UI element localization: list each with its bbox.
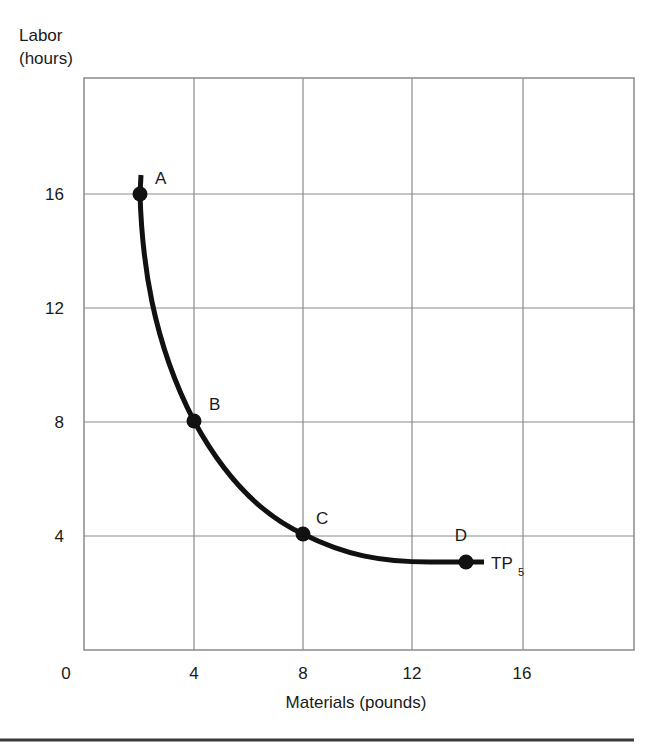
point-c-label: C <box>316 509 328 528</box>
horizontal-gridlines <box>84 194 634 536</box>
point-a-marker <box>133 187 148 202</box>
x-axis-label: Materials (pounds) <box>286 693 427 712</box>
plot-frame <box>84 78 634 650</box>
point-b-marker <box>187 414 202 429</box>
isoquant-curve-tp5 <box>140 175 484 562</box>
x-tick-8: 8 <box>298 664 307 683</box>
isoquant-chart: Labor (hours) 16 12 8 4 0 4 8 12 16 Mate… <box>0 0 657 751</box>
point-c-marker <box>296 527 311 542</box>
point-a-label: A <box>155 169 167 188</box>
x-tick-0: 0 <box>61 664 70 683</box>
y-tick-16: 16 <box>45 185 64 204</box>
point-b-label: B <box>209 395 220 414</box>
y-axis-label-line1: Labor <box>19 26 63 45</box>
y-tick-4: 4 <box>55 527 64 546</box>
y-tick-12: 12 <box>45 299 64 318</box>
curve-label-subscript: 5 <box>518 566 524 578</box>
point-d-label: D <box>455 526 467 545</box>
x-tick-16: 16 <box>513 664 532 683</box>
y-axis-label-line2: (hours) <box>19 49 73 68</box>
point-d-marker <box>459 555 474 570</box>
x-tick-12: 12 <box>403 664 422 683</box>
y-tick-8: 8 <box>55 413 64 432</box>
x-tick-4: 4 <box>189 664 198 683</box>
curve-label-tp: TP <box>491 554 513 573</box>
